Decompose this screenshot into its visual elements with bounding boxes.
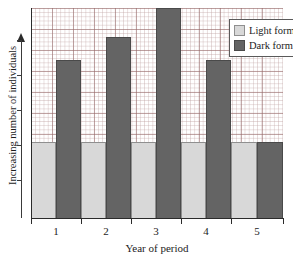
y-axis-tick — [17, 110, 22, 111]
x-axis-tick — [231, 219, 232, 224]
y-axis-label: Increasing number of individuals — [7, 16, 18, 216]
legend-swatch-light-icon — [234, 25, 245, 36]
x-axis-tick — [81, 219, 82, 224]
x-axis-label: Year of period — [31, 242, 283, 254]
bar-dark-year-1[interactable] — [56, 60, 81, 218]
bar-dark-year-5[interactable] — [257, 142, 283, 218]
x-axis-tick — [283, 219, 284, 224]
bar-light-year-4[interactable] — [181, 142, 206, 218]
bar-group-year-1 — [31, 8, 81, 218]
legend-label-light-form: Light form — [249, 25, 293, 36]
bar-light-year-1[interactable] — [31, 142, 56, 218]
x-axis-tick-label-1: 1 — [44, 225, 68, 237]
bar-light-year-2[interactable] — [81, 142, 106, 218]
legend: Light form Dark form — [229, 19, 293, 57]
bar-group-year-4 — [181, 8, 231, 218]
legend-item-light-form[interactable]: Light form — [234, 23, 293, 38]
bar-group-year-3 — [131, 8, 181, 218]
x-axis-line — [31, 218, 284, 219]
x-axis-tick-label-3: 3 — [144, 225, 168, 237]
y-axis-label-group: Increasing number of individuals — [0, 18, 24, 218]
y-axis-tick — [17, 145, 22, 146]
bar-group-year-2 — [81, 8, 131, 218]
x-axis-tick — [181, 219, 182, 224]
x-axis-tick-label-5: 5 — [245, 225, 269, 237]
bar-dark-year-4[interactable] — [206, 60, 231, 218]
y-axis-rule — [21, 40, 22, 218]
bar-light-year-5[interactable] — [231, 142, 257, 218]
legend-item-dark-form[interactable]: Dark form — [234, 38, 293, 53]
plot-area: Light form Dark form — [31, 8, 283, 218]
x-axis-tick-label-4: 4 — [194, 225, 218, 237]
bar-light-year-3[interactable] — [131, 142, 156, 218]
x-axis-tick — [31, 219, 32, 224]
legend-swatch-dark-icon — [234, 40, 245, 51]
y-axis-line — [31, 8, 32, 219]
bar-dark-year-2[interactable] — [106, 37, 131, 218]
x-axis-tick — [131, 219, 132, 224]
bar-chart-figure: Increasing number of individuals — [0, 0, 293, 264]
y-axis-tick — [17, 75, 22, 76]
legend-label-dark-form: Dark form — [249, 40, 293, 51]
y-axis-tick — [17, 40, 22, 41]
bar-dark-year-3[interactable] — [156, 8, 181, 218]
y-axis-tick — [17, 180, 22, 181]
x-axis-tick-label-2: 2 — [94, 225, 118, 237]
